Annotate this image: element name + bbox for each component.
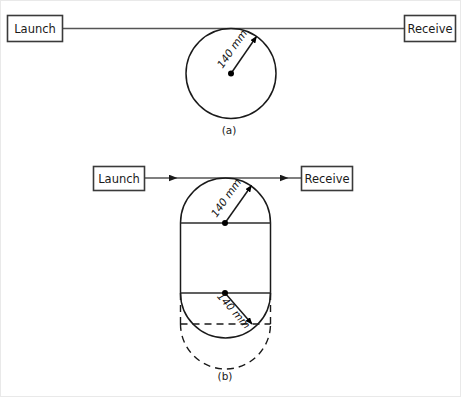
panel-a-receive-label: Receive — [407, 22, 452, 36]
technical-diagram: 140 mm Launch Receive (a) — [1, 1, 461, 397]
panel-b-upper-radius-label: 140 mm — [208, 176, 243, 219]
panel-a-radius-label: 140 mm — [214, 27, 249, 70]
figure-container: 140 mm Launch Receive (a) — [0, 0, 461, 397]
panel-b-launch-label: Launch — [98, 172, 140, 186]
panel-b-dashed-arc — [181, 324, 271, 369]
panel-b-receive-label: Receive — [304, 172, 349, 186]
panel-b-group: 140 mm 140 mm Launch Receive (b) — [94, 167, 353, 383]
panel-a-group: 140 mm Launch Receive (a) — [8, 16, 456, 137]
panel-b-caption: (b) — [218, 370, 233, 382]
panel-a-caption: (a) — [222, 124, 237, 136]
panel-b-lower-radius-label: 140 mm — [215, 290, 253, 331]
panel-a-center-dot — [228, 71, 234, 77]
panel-b-upper-center-dot — [222, 220, 228, 226]
panel-a-launch-label: Launch — [14, 22, 56, 36]
